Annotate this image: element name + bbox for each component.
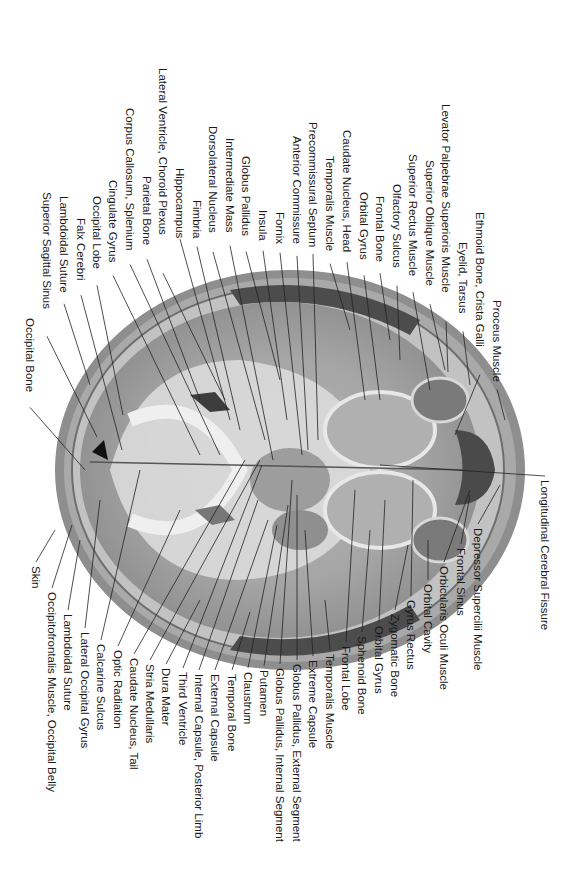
label-lateral-ventricle-choroid-plexus: Lateral Ventricle, Choroid Plexus	[157, 68, 169, 235]
label-superior-oblique-muscle: Superior Oblique Muscle	[424, 160, 436, 286]
label-fimbria: Fimbria	[191, 200, 203, 238]
label-corpus-callosum-splenium: Corpus Callosum, Splenium	[124, 108, 136, 251]
label-fornix: Fornix	[274, 212, 286, 244]
label-occipital-lobe: Occipital Lobe	[91, 196, 103, 269]
label-dorsolateral-nucleus: Dorsolateral Nucleus	[207, 126, 219, 233]
label-levator-palpebrae-superioris-muscle: Levator Palpebrae Superioris Muscle	[440, 104, 452, 293]
label-skin: Skin	[30, 566, 42, 588]
label-frontal-lobe: Frontal Lobe	[340, 646, 352, 711]
label-occipital-bone: Occipital Bone	[24, 318, 36, 392]
label-anterior-commissure: Anterior Commissure	[291, 136, 303, 244]
leader-lambdoidal-suture	[68, 540, 80, 610]
label-intermediate-mass: Intermediate Mass	[224, 138, 236, 233]
label-globus-pallidus-internal-segment: Globus Pallidus, Internal Segment	[274, 668, 286, 842]
label-zygomatic-bone: Zygomatic Bone	[389, 614, 401, 697]
label-depressor-supercilii-muscle: Depressor Supercilii Muscle	[472, 528, 484, 671]
leader-occipitofrontalis-muscle-occipital-belly	[52, 525, 72, 588]
label-lateral-occipital-gyrus: Lateral Occipital Gyrus	[79, 632, 91, 748]
label-ethmoid-bone-crista-galli: Ethmoid Bone, Crista Galli	[474, 212, 486, 347]
label-calcarine-sulcus: Calcarine Sulcus	[95, 644, 107, 730]
label-longitudinal-cerebral-fissure: Longitudinal Cerebral Fissure	[539, 480, 551, 630]
label-lambdoidal-suture: Lambdoidal Suture	[58, 196, 70, 293]
thalamus	[250, 448, 330, 512]
label-globus-pallidus-external-segment: Globus Pallidus, External Segment	[291, 664, 303, 842]
leader-skin	[36, 530, 55, 562]
label-lambdoidal-suture: Lambdoidal Suture	[62, 614, 74, 711]
label-insula: Insula	[257, 210, 269, 241]
label-superior-rectus-muscle: Superior Rectus Muscle	[407, 154, 419, 276]
brain-section-illustration	[0, 0, 577, 884]
label-caudate-nucleus-tail: Caudate Nucleus, Tail	[128, 658, 140, 770]
label-third-ventricle: Third Ventricle	[177, 672, 189, 746]
label-sphenoid-bone: Sphenoid Bone	[356, 636, 368, 715]
label-temporalis-muscle: Temporalis Muscle	[324, 156, 336, 251]
label-stria-medullaris: Stria Medullaris	[144, 664, 156, 743]
label-proceus-muscle: Proceus Muscle	[491, 300, 503, 382]
label-temporalis-muscle: Temporalis Muscle	[324, 654, 336, 749]
label-temporal-bone: Temporal Bone	[226, 674, 238, 751]
label-occipitofrontalis-muscle-occipital-belly: Occipitofrontalis Muscle, Occipital Bell…	[46, 592, 58, 792]
label-olfactory-sulcus: Olfactory Sulcus	[391, 184, 403, 268]
label-dura-mater: Dura Mater	[160, 668, 172, 726]
label-optic-radiation: Optic Radiation	[112, 650, 124, 729]
label-globus-pallidus: Globus Pallidus	[240, 156, 252, 236]
label-external-capsule: External Capsule	[209, 674, 221, 762]
anatomy-figure: Occipital BoneSuperior Sagittal SinusLam…	[0, 0, 577, 884]
label-gyrus-rectus: Gyrus Rectus	[405, 600, 417, 670]
label-superior-sagittal-sinus: Superior Sagittal Sinus	[41, 192, 53, 309]
label-orbital-cavity: Orbital Cavity	[422, 584, 434, 653]
label-orbital-gyrus: Orbital Gyrus	[373, 626, 385, 694]
label-falx-cerebri: Falx Cerebri	[75, 218, 87, 281]
label-parietal-bone: Parietal Bone	[141, 176, 153, 245]
label-eyelid-tarsus: Eyelid, Tarsus	[457, 242, 469, 313]
label-orbicularis-oculi-muscle: Orbicularis Oculi Muscle	[438, 566, 450, 690]
label-cingulate-gyrus: Cingulate Gyrus	[107, 180, 119, 262]
label-putamen: Putamen	[258, 670, 270, 716]
label-frontal-sinus: Frontal Sinus	[455, 548, 467, 616]
label-precommissural-septum: Precommissural Septum	[307, 122, 319, 247]
orbit-top	[412, 378, 468, 422]
label-orbital-gyrus: Orbital Gyrus	[358, 192, 370, 260]
label-extreme-capsule: Extreme Capsule	[307, 660, 319, 748]
label-caudate-nucleus-head: Caudate Nucleus, Head	[341, 130, 353, 252]
label-hippocampus: Hippocampus	[174, 168, 186, 238]
label-frontal-bone: Frontal Bone	[374, 196, 386, 262]
label-internal-capsule-posterior-limb: Internal Capsule, Posterior Limb	[193, 674, 205, 838]
label-claustrum: Claustrum	[242, 672, 254, 724]
putamen	[272, 510, 328, 550]
